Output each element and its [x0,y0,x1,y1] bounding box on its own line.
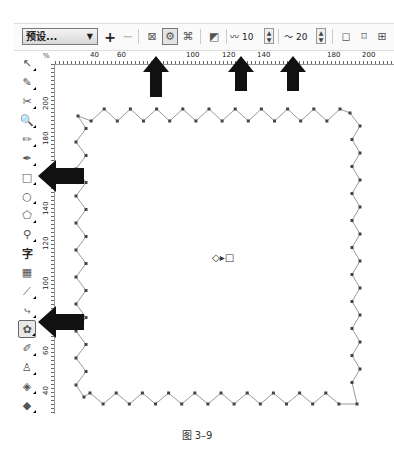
annotation-arrows [0,0,394,455]
arrow-up-amplitude-icon [228,56,254,91]
figure-caption: 图 3–9 [0,427,394,442]
arrow-up-frequency-icon [280,56,306,91]
arrow-left-distort-icon [38,306,84,338]
arrow-left-rectangle-icon [38,160,84,192]
arrow-up-zipper-icon [143,56,169,97]
